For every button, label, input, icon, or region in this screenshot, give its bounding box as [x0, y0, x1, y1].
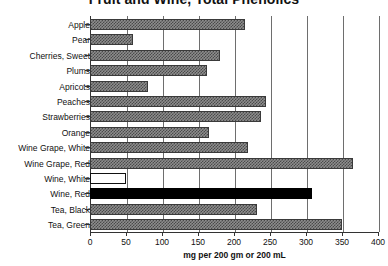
bar [90, 96, 266, 107]
x-axis-tick [90, 232, 91, 236]
bar [90, 34, 133, 45]
x-axis-tick [198, 232, 199, 236]
category-label: Wine, White [0, 171, 90, 187]
x-axis-tick [126, 232, 127, 236]
bar-row: Apricots [0, 79, 388, 95]
bar-row: Plums [0, 63, 388, 79]
x-axis-tick-label: 300 [299, 237, 313, 247]
category-label: Orange [0, 125, 90, 141]
bar-row: Orange [0, 125, 388, 141]
bar-row: Pear [0, 32, 388, 48]
category-label: Plums [0, 63, 90, 79]
chart-title: Fruit and Wine, Total Phenolics [0, 0, 388, 7]
x-axis-tick [378, 232, 379, 236]
bar [90, 188, 312, 199]
category-label: Pear [0, 32, 90, 48]
chart-container: Fruit and Wine, Total Phenolics ApplePea… [0, 0, 388, 266]
category-label: Apricots [0, 79, 90, 95]
category-label: Peaches [0, 94, 90, 110]
bar-row: Wine Grape, Red [0, 156, 388, 172]
x-axis-tick-label: 100 [155, 237, 169, 247]
bar [90, 111, 261, 122]
x-axis-tick [270, 232, 271, 236]
bar-row: Wine, White [0, 171, 388, 187]
bar-row: Tea, Black [0, 202, 388, 218]
bar [90, 173, 126, 184]
bar-row: Wine Grape, White [0, 140, 388, 156]
bar-row: Cherries, Sweet [0, 48, 388, 64]
bar-row: Tea, Green [0, 217, 388, 233]
category-label: Cherries, Sweet [0, 48, 90, 64]
x-axis-tick-label: 200 [227, 237, 241, 247]
x-axis-tick-label: 400 [371, 237, 385, 247]
x-axis-tick [234, 232, 235, 236]
category-label: Tea, Green [0, 217, 90, 233]
x-axis-tick-label: 150 [191, 237, 205, 247]
category-label: Apple [0, 17, 90, 33]
x-axis-tick-label: 0 [88, 237, 93, 247]
bar [90, 127, 209, 138]
x-axis-label: mg per 200 gm or 200 mL [90, 250, 379, 260]
bar [90, 19, 245, 30]
bar-row: Strawberries [0, 109, 388, 125]
x-axis-tick-label: 50 [121, 237, 130, 247]
bar [90, 65, 207, 76]
x-axis-tick [162, 232, 163, 236]
x-axis-tick [306, 232, 307, 236]
bar-row: Wine, Red [0, 186, 388, 202]
bar [90, 204, 257, 215]
bar [90, 219, 342, 230]
x-axis-tick-label: 250 [263, 237, 277, 247]
bar [90, 50, 220, 61]
bar [90, 81, 148, 92]
category-label: Strawberries [0, 109, 90, 125]
x-axis-tick-label: 350 [335, 237, 349, 247]
bar [90, 142, 248, 153]
bar-row: Peaches [0, 94, 388, 110]
bar-row: Apple [0, 17, 388, 33]
category-label: Tea, Black [0, 202, 90, 218]
category-label: Wine Grape, White [0, 140, 90, 156]
category-label: Wine Grape, Red [0, 156, 90, 172]
category-label: Wine, Red [0, 186, 90, 202]
x-axis-tick [342, 232, 343, 236]
bar [90, 158, 353, 169]
